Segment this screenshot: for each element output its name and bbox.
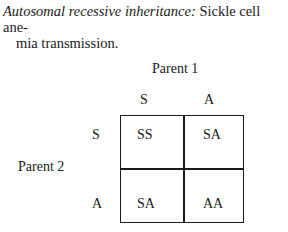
column-allele-a: A <box>204 92 214 108</box>
cell-aa: AA <box>203 196 223 212</box>
grid-divider-horizontal <box>121 168 243 170</box>
cell-sa-bottom: SA <box>137 196 155 212</box>
parent-1-label: Parent 1 <box>152 61 198 77</box>
caption-line2: mia transmission. <box>3 35 287 51</box>
figure-caption: Autosomal recessive inheritance: Sickle … <box>3 3 287 51</box>
cell-sa-top: SA <box>203 127 221 143</box>
caption-lead: Autosomal recessive inheritance: <box>3 3 196 19</box>
parent-2-label: Parent 2 <box>18 159 64 175</box>
cell-ss: SS <box>137 127 153 143</box>
punnett-square: SS SA SA AA <box>120 115 244 223</box>
column-allele-s: S <box>140 92 148 108</box>
row-allele-s: S <box>92 127 100 143</box>
row-allele-a: A <box>92 196 102 212</box>
